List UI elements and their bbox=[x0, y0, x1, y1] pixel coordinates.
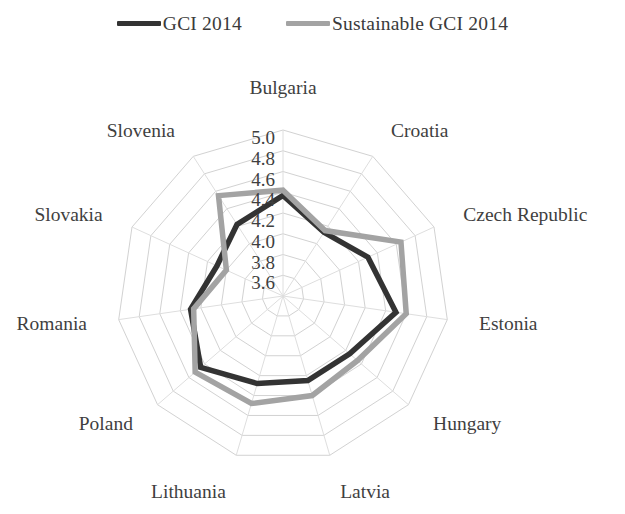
radar-chart-figure: GCI 2014 Sustainable GCI 2014 3.63.84.04… bbox=[0, 0, 625, 514]
category-label-croatia: Croatia bbox=[391, 120, 449, 141]
category-label-hungary: Hungary bbox=[433, 413, 501, 434]
radial-tick-label: 4.0 bbox=[251, 231, 275, 252]
category-label-lithuania: Lithuania bbox=[151, 481, 226, 502]
radial-tick-label: 5.0 bbox=[251, 127, 275, 148]
radial-tick-label: 3.6 bbox=[251, 272, 275, 293]
category-label-latvia: Latvia bbox=[340, 481, 390, 502]
category-label-romania: Romania bbox=[17, 313, 88, 334]
category-label-bulgaria: Bulgaria bbox=[249, 77, 316, 98]
radial-axis-tick-labels: 3.63.84.04.24.44.64.85.0 bbox=[251, 127, 275, 293]
radar-svg: 3.63.84.04.24.44.64.85.0 BulgariaCroatia… bbox=[0, 0, 625, 514]
category-label-slovenia: Slovenia bbox=[107, 120, 176, 141]
radar-grid-spokes bbox=[119, 130, 448, 455]
series-line-sustainable-gci-2014 bbox=[194, 190, 407, 403]
radial-tick-label: 4.2 bbox=[251, 210, 275, 231]
radial-tick-label: 4.4 bbox=[251, 189, 275, 210]
radar-plot-area: 3.63.84.04.24.44.64.85.0 BulgariaCroatia… bbox=[0, 0, 625, 514]
radial-tick-label: 4.6 bbox=[251, 169, 275, 190]
category-label-estonia: Estonia bbox=[479, 313, 538, 334]
radial-tick-label: 3.8 bbox=[251, 252, 275, 273]
grid-spoke bbox=[283, 296, 447, 320]
category-label-czech-republic: Czech Republic bbox=[463, 204, 587, 225]
category-label-slovakia: Slovakia bbox=[34, 204, 103, 225]
category-label-poland: Poland bbox=[79, 413, 133, 434]
radial-tick-label: 4.8 bbox=[251, 148, 275, 169]
